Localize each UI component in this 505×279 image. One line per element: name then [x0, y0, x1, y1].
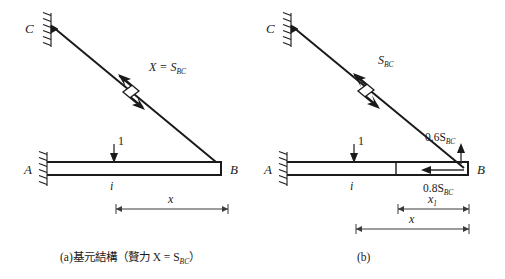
unit-load-label-a: 1 — [118, 134, 124, 148]
horizontal-component-arrow-b — [421, 166, 464, 174]
dimension-x-label-a: x — [167, 192, 174, 206]
vertical-component-label-b: 0.6SBC — [425, 131, 456, 146]
structural-diagram-figure: C X = SBC A — [0, 0, 505, 279]
beam-ab-a — [47, 162, 222, 175]
cut-symbol-a — [118, 74, 145, 110]
panel-a: C X = SBC A — [23, 13, 238, 267]
dimension-x1-label-b: x1 — [427, 192, 437, 208]
cut-force-label-a: X = SBC — [148, 60, 187, 76]
caption-panel-a: (a)基元結構（贅力 X = SBC） — [60, 250, 200, 266]
support-a-fixed — [39, 152, 47, 187]
node-label-a-a: A — [23, 162, 32, 177]
node-label-b-a: B — [230, 162, 238, 177]
member-index-label-a: i — [110, 179, 113, 193]
vertical-component-arrow-b — [457, 143, 465, 164]
unit-load-label-b: 1 — [358, 134, 364, 148]
cut-force-label-b: SBC — [378, 53, 395, 69]
node-label-c-a: C — [25, 21, 34, 36]
unit-load-arrow-b — [350, 144, 358, 163]
cut-symbol-b — [353, 73, 380, 109]
beam-ab-b — [287, 162, 469, 175]
member-index-label-b: i — [350, 179, 353, 193]
member-cb-b — [293, 27, 464, 168]
node-label-c-b: C — [266, 21, 275, 36]
dimension-x-label-b: x — [408, 212, 415, 226]
support-a-fixed-b — [279, 152, 287, 187]
unit-load-arrow-a — [110, 144, 118, 163]
diagram-canvas: C X = SBC A — [0, 0, 505, 279]
panel-b: C SBC A — [263, 13, 485, 265]
caption-panel-b: (b) — [357, 251, 371, 264]
node-label-b-b: B — [477, 162, 485, 177]
node-label-a-b: A — [263, 162, 272, 177]
